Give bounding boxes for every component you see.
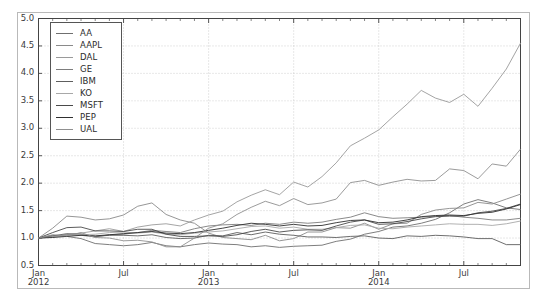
x-tick-label: Jul bbox=[267, 269, 321, 279]
legend-item-aa[interactable]: AA bbox=[54, 27, 118, 39]
legend-item-msft[interactable]: MSFT bbox=[54, 99, 118, 111]
y-tick-label: 5.0 bbox=[8, 14, 34, 23]
legend-swatch-icon bbox=[56, 45, 73, 46]
x-tick-label: Jul bbox=[437, 269, 491, 279]
y-tick-label: 4.0 bbox=[8, 68, 34, 77]
legend-swatch-icon bbox=[56, 117, 73, 118]
legend-label: UAL bbox=[80, 123, 97, 135]
y-tick-label: 2.5 bbox=[8, 151, 34, 160]
legend-label: IBM bbox=[80, 75, 96, 87]
legend-swatch-icon bbox=[56, 33, 73, 34]
y-tick-label: 2.0 bbox=[8, 178, 34, 187]
legend-label: KO bbox=[80, 87, 92, 99]
legend-swatch-icon bbox=[56, 129, 73, 130]
legend-item-dal[interactable]: DAL bbox=[54, 51, 118, 63]
legend-item-ge[interactable]: GE bbox=[54, 63, 118, 75]
y-tick-label: 1.5 bbox=[8, 206, 34, 215]
legend-item-pep[interactable]: PEP bbox=[54, 111, 118, 123]
legend-swatch-icon bbox=[56, 93, 73, 94]
y-tick-label: 4.5 bbox=[8, 41, 34, 50]
legend-label: AA bbox=[80, 27, 92, 39]
legend-label: PEP bbox=[80, 111, 96, 123]
legend-label: AAPL bbox=[80, 39, 102, 51]
x-tick-label: Jul bbox=[97, 269, 151, 279]
y-tick-label: 3.5 bbox=[8, 96, 34, 105]
legend-label: GE bbox=[80, 63, 92, 75]
legend-label: MSFT bbox=[80, 99, 103, 111]
y-tick-label: 1.0 bbox=[8, 233, 34, 242]
legend-item-ual[interactable]: UAL bbox=[54, 123, 118, 135]
legend-item-ko[interactable]: KO bbox=[54, 87, 118, 99]
chart-legend[interactable]: AAAAPLDALGEIBMKOMSFTPEPUAL bbox=[50, 22, 122, 140]
legend-label: DAL bbox=[80, 51, 97, 63]
legend-item-ibm[interactable]: IBM bbox=[54, 75, 118, 87]
x-tick-label: Jan 2014 bbox=[352, 269, 406, 288]
legend-swatch-icon bbox=[56, 81, 73, 82]
legend-swatch-icon bbox=[56, 105, 73, 106]
x-tick-label: Jan 2012 bbox=[12, 269, 66, 288]
legend-swatch-icon bbox=[56, 57, 73, 58]
legend-swatch-icon bbox=[56, 69, 73, 70]
y-tick-label: 3.0 bbox=[8, 123, 34, 132]
figure-canvas: 0.51.01.52.02.53.03.54.04.55.0 Jan 2012J… bbox=[0, 0, 558, 306]
legend-item-aapl[interactable]: AAPL bbox=[54, 39, 118, 51]
x-tick-label: Jan 2013 bbox=[182, 269, 236, 288]
series-line-pep bbox=[39, 205, 521, 238]
